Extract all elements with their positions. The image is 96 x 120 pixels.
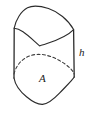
top-face-outline xyxy=(14,6,73,46)
area-label: A xyxy=(39,73,46,84)
prism-solid-drawing xyxy=(0,0,96,120)
height-label: h xyxy=(79,47,85,58)
right-vertical-edge xyxy=(74,30,75,77)
geometry-figure: A h xyxy=(0,0,96,120)
